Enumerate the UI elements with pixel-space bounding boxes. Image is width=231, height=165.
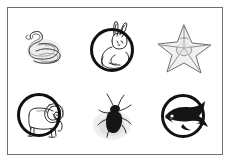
grid-cell-beetle[interactable]: [80, 81, 149, 149]
grid-cell-starfish[interactable]: [150, 13, 219, 81]
beetle-icon: [84, 85, 146, 145]
grid-cell-lion[interactable]: [11, 81, 80, 149]
circle-mark-whale: [161, 94, 205, 138]
circle-mark-lion: [17, 93, 61, 137]
grid-cell-rabbit[interactable]: [80, 13, 149, 81]
worksheet-sheet: [0, 0, 231, 165]
snake-icon: [15, 17, 77, 77]
whale-icon: [153, 85, 215, 145]
animal-grid: [7, 7, 223, 155]
lion-icon: [15, 85, 77, 145]
grid-cell-snake[interactable]: [11, 13, 80, 81]
starfish-icon: [153, 17, 215, 77]
rabbit-icon: [84, 17, 146, 77]
grid-cell-whale[interactable]: [150, 81, 219, 149]
circle-mark-rabbit: [90, 28, 134, 72]
